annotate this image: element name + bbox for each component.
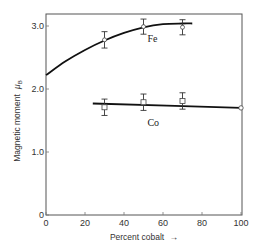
data-point-fe <box>141 19 147 34</box>
data-point-co <box>102 99 108 115</box>
series-layer <box>46 19 243 115</box>
x-tick-label: 100 <box>233 218 248 228</box>
data-point-fe <box>102 32 108 48</box>
annotations: FeCo <box>147 33 159 128</box>
y-tick-label: 1.0 <box>31 147 44 157</box>
marker-circle <box>103 38 107 42</box>
x-tick-label: 80 <box>197 218 207 228</box>
plot-frame <box>46 14 242 215</box>
curve-co <box>93 103 241 107</box>
marker-square <box>141 100 146 105</box>
series-label-co: Co <box>147 117 159 128</box>
curve-fe <box>46 23 192 75</box>
data-point-co <box>141 94 147 110</box>
y-tick-label: 3.0 <box>31 21 44 31</box>
y-axis-label: Magnetic moment μB <box>12 80 23 162</box>
x-tick-label: 20 <box>80 218 90 228</box>
series-co <box>93 93 243 116</box>
series-label-fe: Fe <box>147 33 158 44</box>
x-axis: 020406080100 <box>43 212 248 228</box>
x-tick-label: 60 <box>158 218 168 228</box>
marker-square <box>180 98 185 103</box>
marker-circle <box>142 25 146 29</box>
x-axis-label: Percent cobalt → <box>110 232 178 242</box>
chart: 020406080100 01.02.03.0 FeCo Percent cob… <box>0 0 258 252</box>
x-tick-label: 40 <box>119 218 129 228</box>
marker-square <box>102 105 107 110</box>
x-tick-label: 0 <box>43 218 48 228</box>
y-tick-label: 2.0 <box>31 84 44 94</box>
series-fe <box>46 19 192 75</box>
endpoint-marker-co <box>239 106 243 110</box>
data-point-fe <box>180 20 186 35</box>
marker-circle <box>181 25 185 29</box>
y-tick-label: 0 <box>39 210 44 220</box>
